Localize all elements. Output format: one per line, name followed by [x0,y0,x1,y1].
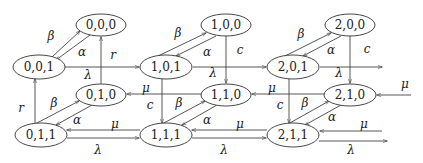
label-alpha: α [203,113,211,127]
node-0-0-1: 0,0,1 [13,55,65,79]
label-c: c [277,98,284,112]
label-beta: β [175,96,183,110]
node-2-1-0: 2,1,0 [324,84,376,106]
label-mu: μ [401,77,409,91]
label-lambda: λ [208,66,217,80]
node-label: 1,0,0 [211,18,242,32]
label-mu: μ [111,117,119,131]
label-alpha: α [203,45,211,59]
label-beta: β [301,96,309,110]
edge-alpha-110-111 [182,105,217,125]
node-label: 2,1,1 [278,128,309,142]
label-c: c [364,42,371,56]
label-alpha: α [73,113,81,127]
node-0-1-0: 0,1,0 [76,84,126,106]
label-r: r [18,101,25,115]
node-label: 1,1,0 [211,88,242,102]
label-mu: μ [360,117,368,131]
node-2-1-1: 2,1,1 [267,123,319,147]
label-r: r [110,48,117,62]
label-mu: μ [268,81,276,95]
label-lambda: λ [346,143,355,157]
label-c: c [237,43,244,57]
node-2-0-1: 2,0,1 [267,55,319,79]
node-1-0-1: 1,0,1 [140,55,192,79]
label-lambda: λ [83,68,92,82]
state-diagram: β α r λ β α c λ β α c λ r β α μ c β α μ … [0,0,423,163]
label-lambda: λ [93,143,102,157]
node-label: 2,0,1 [278,60,309,74]
label-lambda: λ [219,143,228,157]
node-1-1-0: 1,1,0 [201,84,251,106]
node-label: 2,1,0 [335,88,366,102]
node-0-0-0: 0,0,0 [76,14,126,36]
node-label: 0,1,1 [26,128,57,142]
node-0-1-1: 0,1,1 [15,123,67,147]
label-c: c [147,98,154,112]
label-beta: β [174,26,182,40]
edge-beta-111-110 [162,101,205,124]
label-beta: β [50,96,58,110]
node-label: 0,0,1 [24,60,55,74]
label-beta: β [47,29,55,43]
label-mu: μ [236,117,244,131]
label-mu: μ [142,81,150,95]
edge-beta-211-210 [288,101,329,124]
label-alpha: α [328,110,336,124]
node-label: 0,0,0 [86,18,117,32]
label-alpha: α [78,45,86,59]
node-label: 0,1,0 [86,88,117,102]
node-label: 2,0,0 [335,18,366,32]
node-1-0-0: 1,0,0 [201,14,251,36]
node-1-1-1: 1,1,1 [140,123,192,147]
node-label: 1,0,1 [151,60,182,74]
node-label: 1,1,1 [151,128,182,142]
label-lambda: λ [334,66,343,80]
edge-alpha-200-201 [303,36,341,56]
label-alpha: α [327,43,335,57]
label-beta: β [297,27,305,41]
node-2-0-0: 2,0,0 [325,14,375,36]
